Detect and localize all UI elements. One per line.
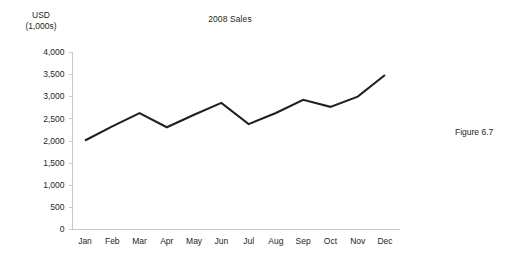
x-tick-label: Oct xyxy=(324,236,338,246)
y-tick-label: 0 xyxy=(60,224,65,234)
x-tick-label: Sep xyxy=(296,236,311,246)
plot-svg: 05001,0001,5002,0002,5003,0003,5004,000 … xyxy=(0,0,430,272)
x-tick-label: Dec xyxy=(377,236,393,246)
x-tick-label: Jun xyxy=(215,236,229,246)
y-tick-label: 4,000 xyxy=(43,47,65,57)
y-tick-label: 1,000 xyxy=(43,180,65,190)
x-tick-label: Apr xyxy=(160,236,173,246)
x-tick-label: Feb xyxy=(105,236,120,246)
x-tick-group: JanFebMarAprMayJunJulAugSepOctNovDec xyxy=(78,236,393,246)
y-tick-group: 05001,0001,5002,0002,5003,0003,5004,000 xyxy=(43,47,72,234)
y-tick-label: 2,000 xyxy=(43,136,65,146)
y-tick-label: 2,500 xyxy=(43,114,65,124)
y-tick-label: 1,500 xyxy=(43,158,65,168)
x-tick-label: Jan xyxy=(78,236,92,246)
y-tick-label: 3,500 xyxy=(43,69,65,79)
figure-caption: Figure 6.7 xyxy=(455,127,493,137)
y-tick-label: 500 xyxy=(50,202,64,212)
figure-container: USD (1,000s) 2008 Sales 05001,0001,5002,… xyxy=(0,0,523,272)
y-tick-label: 3,000 xyxy=(43,91,65,101)
sales-line-chart: USD (1,000s) 2008 Sales 05001,0001,5002,… xyxy=(0,0,430,272)
series-line-2008-sales xyxy=(85,75,385,140)
x-tick-label: May xyxy=(186,236,203,246)
x-tick-label: Jul xyxy=(243,236,254,246)
x-tick-label: Mar xyxy=(132,236,147,246)
x-tick-label: Aug xyxy=(268,236,283,246)
x-tick-label: Nov xyxy=(350,236,366,246)
